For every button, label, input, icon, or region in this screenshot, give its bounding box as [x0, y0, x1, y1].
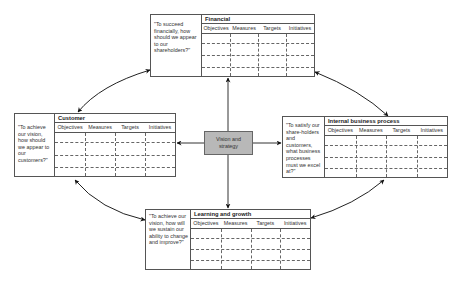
customer-title: Customer	[55, 114, 175, 123]
header-initiatives: Initiatives	[286, 24, 314, 33]
financial-question: "To succeed financially, how should we a…	[151, 15, 202, 76]
header-initiatives: Initiatives	[145, 123, 175, 132]
column-headers: Objectives Measures Targets Initiatives	[202, 24, 314, 34]
perspective-learning-and-growth: "To achieve our vision, how will we sust…	[145, 209, 311, 270]
perspective-customer: "To achieve our vision, how should we ap…	[14, 113, 176, 177]
header-measures: Measures	[85, 123, 115, 132]
header-targets: Targets	[258, 24, 286, 33]
internal-question: "To satisfy our share-holders and custom…	[283, 117, 325, 177]
column-headers: Objectives Measures Targets Initiatives	[325, 126, 447, 136]
header-targets: Targets	[251, 219, 281, 228]
grid-cells	[55, 133, 175, 176]
header-initiatives: Initiatives	[280, 219, 310, 228]
header-objectives: Objectives	[55, 123, 85, 132]
column-headers: Objectives Measures Targets Initiatives	[191, 219, 310, 229]
header-initiatives: Initiatives	[417, 126, 448, 135]
header-objectives: Objectives	[191, 219, 221, 228]
arrow-customer-learning	[75, 180, 145, 220]
learning-title: Learning and growth	[191, 210, 310, 219]
arrow-internal-learning	[311, 180, 384, 218]
header-objectives: Objectives	[202, 24, 230, 33]
vision-and-strategy-box: Vision and strategy	[204, 131, 253, 155]
arrow-financial-internal	[315, 72, 388, 116]
internal-title: Internal business process	[325, 117, 447, 126]
learning-question: "To achieve our vision, how will we sust…	[146, 210, 191, 269]
column-headers: Objectives Measures Targets Initiatives	[55, 123, 175, 133]
arrow-financial-customer	[78, 70, 150, 112]
grid-cells	[325, 136, 447, 177]
grid-cells	[202, 34, 314, 76]
customer-question: "To achieve our vision, how should we ap…	[15, 114, 55, 176]
header-objectives: Objectives	[325, 126, 356, 135]
perspective-internal-business-process: "To satisfy our share-holders and custom…	[282, 116, 448, 178]
grid-cells	[191, 229, 310, 269]
financial-title: Financial	[202, 15, 314, 24]
center-label-line2: strategy	[216, 143, 241, 150]
header-targets: Targets	[115, 123, 145, 132]
header-measures: Measures	[230, 24, 258, 33]
perspective-financial: "To succeed financially, how should we a…	[150, 14, 315, 77]
center-label-line1: Vision and	[216, 136, 241, 143]
header-measures: Measures	[356, 126, 387, 135]
header-targets: Targets	[386, 126, 417, 135]
header-measures: Measures	[221, 219, 251, 228]
